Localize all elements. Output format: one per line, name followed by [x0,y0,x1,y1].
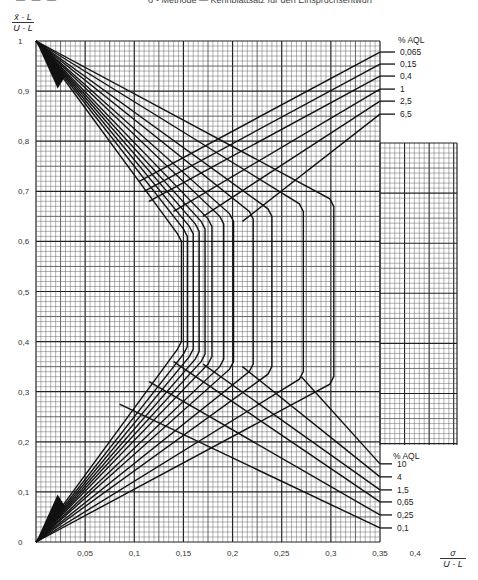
aql-line-upper [139,52,380,181]
legend-lower-entry: 0,25 [397,510,414,520]
x-tick-label: 0,4 [410,549,422,558]
y-tick-label: 0,7 [18,187,30,196]
x-tick-label: 0,05 [77,549,93,558]
y-tick-label: 0,9 [18,87,30,96]
y-tick-label: 0,6 [18,237,30,246]
legend-upper-entry: 6,5 [400,109,412,119]
legend-lower-entry: 4 [397,472,402,482]
x-tick-label: 0,1 [129,549,141,558]
x-tick-label: 0,15 [176,549,192,558]
y-tick-label: 0,2 [18,438,30,447]
legend-upper-entry: 1 [400,84,405,94]
x-tick-label: 0,3 [325,549,337,558]
y-tick-label: 0,1 [18,488,30,497]
legend-upper-entry: 0,4 [400,71,412,81]
legend-upper-entry: 0,065 [400,47,422,57]
y-tick-label: 1 [18,37,23,46]
y-tick-label: 0,8 [18,137,30,146]
x-tick-label: 0,25 [274,549,290,558]
legend-upper-entry: 0,15 [400,59,417,69]
legend-upper-title: % AQL [398,35,425,45]
legend-upper-entry: 2,5 [400,96,412,106]
x-tick-label: 0,35 [372,549,388,558]
y-tick-label: 0 [18,538,23,547]
y-tick-label: 0,4 [18,338,30,347]
acceptance-chart: % AQL0,0650,150,412,56,5% AQL1041,50,650… [0,0,478,580]
legend-lower-entry: 1,5 [397,485,409,495]
y-tick-label: 0,5 [18,288,30,297]
y-tick-label: 0,3 [18,388,30,397]
x-tick-label: 0,2 [227,549,239,558]
legend-lower-entry: 0,1 [397,523,409,533]
legend-lower-entry: 10 [397,459,407,469]
legend-lower-entry: 0,65 [397,497,414,507]
